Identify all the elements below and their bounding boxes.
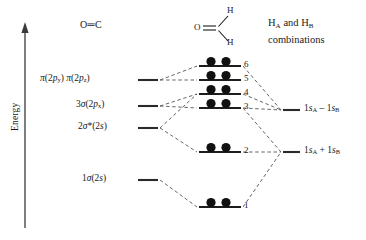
center-level-number-1: 1 <box>244 201 249 210</box>
center-level-number-4: 4 <box>244 88 249 97</box>
electron <box>221 99 230 108</box>
corr-pi-to-6 <box>160 66 197 80</box>
center-level-number-3: 3 <box>244 102 249 111</box>
right-level-bars <box>283 110 300 152</box>
center-level-number-5: 5 <box>244 74 249 83</box>
right-level-label-symmetric: 1sA + 1sB <box>304 146 340 156</box>
corr-sigma3-to-3 <box>160 106 197 108</box>
corr-1-to-sym <box>243 152 281 207</box>
right-fragment-header: HA and HBcombinations <box>268 16 363 46</box>
left-level-bars <box>138 80 158 180</box>
electron <box>206 198 215 207</box>
electron <box>206 57 215 66</box>
corr-sigma3-to-4 <box>160 94 197 106</box>
sketch-hydrogen-top-label: H <box>227 6 234 15</box>
left-level-label-sigma1: 1σ(2s) <box>82 174 106 184</box>
electron <box>206 143 215 152</box>
correlation-lines-left <box>160 66 197 207</box>
center-level-number-6: 6 <box>244 60 249 69</box>
corr-sigma2star-to-4 <box>160 94 197 128</box>
center-level-bars <box>199 66 241 207</box>
electron <box>221 57 230 66</box>
left-level-label-sigma3: 3σ(2px) <box>76 100 105 110</box>
mo-diagram-figure: Energy O═C HA and HBcombinations O H H π… <box>0 0 366 240</box>
left-level-label-sigma2star: 2σ*(2s) <box>78 122 107 132</box>
corr-3-to-sym <box>243 108 281 152</box>
electron <box>221 198 230 207</box>
electron <box>206 71 215 80</box>
electron <box>206 99 215 108</box>
energy-axis-label: Energy <box>11 87 21 147</box>
right-level-label-antisymmetric: 1sA – 1sB <box>304 104 339 114</box>
electron <box>221 71 230 80</box>
electron <box>221 143 230 152</box>
corr-sigma1-to-1 <box>160 180 197 207</box>
formaldehyde-sketch <box>203 16 228 41</box>
corr-sigma2star-to-2 <box>160 128 197 152</box>
sketch-hydrogen-bottom-label: H <box>227 38 234 47</box>
sketch-oxygen-label: O <box>194 23 201 32</box>
left-level-label-pi2p: π(2py) π(2pz) <box>40 74 90 84</box>
center-level-number-2: 2 <box>244 146 249 155</box>
electron <box>221 85 230 94</box>
energy-axis <box>21 22 28 228</box>
electron <box>206 85 215 94</box>
left-fragment-header: O═C <box>80 20 102 30</box>
